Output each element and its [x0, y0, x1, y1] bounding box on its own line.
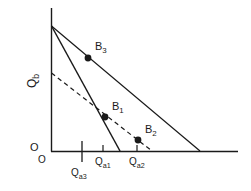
point-b3 — [85, 55, 92, 62]
origin-label-axis: O — [30, 142, 39, 153]
budget-constraint-figure: Qb O O B3 B1 B2 Qa1 Qa2 Qa3 — [0, 0, 251, 191]
y-axis-label: Qb — [26, 74, 41, 88]
y-axis-label-sub: b — [31, 74, 41, 79]
budget-line-1 — [52, 26, 121, 151]
tick-label-qa1-sub: a1 — [103, 161, 111, 170]
point-label-b3-sub: 3 — [102, 46, 106, 55]
point-label-b3: B3 — [95, 41, 107, 55]
tick-label-qa3: Qa3 — [71, 168, 87, 180]
tick-label-qa1-letter: Q — [95, 156, 103, 167]
tick-label-qa1: Qa1 — [95, 157, 111, 169]
point-label-b2-sub: 2 — [152, 129, 156, 138]
point-label-b1-sub: 1 — [119, 106, 123, 115]
point-label-b1: B1 — [112, 101, 124, 115]
point-b1 — [102, 114, 109, 121]
point-b2 — [135, 137, 142, 144]
budget-line-3 — [52, 26, 201, 151]
point-label-b2: B2 — [145, 124, 157, 138]
y-axis-label-letter: Q — [25, 79, 39, 88]
tick-label-qa2-sub: a2 — [137, 161, 145, 170]
origin-label-below: O — [38, 155, 46, 165]
tick-label-qa3-sub: a3 — [79, 172, 87, 181]
tick-label-qa2: Qa2 — [129, 157, 145, 169]
tick-label-qa3-letter: Q — [71, 167, 79, 178]
tick-label-qa2-letter: Q — [129, 156, 137, 167]
